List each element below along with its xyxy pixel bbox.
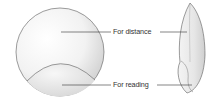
label-for-distance: For distance: [113, 28, 151, 36]
front-view-lens: [16, 8, 104, 97]
side-view-lens: [178, 3, 205, 93]
bifocal-lens-diagram: [0, 0, 220, 103]
label-for-reading: For reading: [113, 81, 149, 89]
side-lens-outline: [178, 3, 205, 93]
